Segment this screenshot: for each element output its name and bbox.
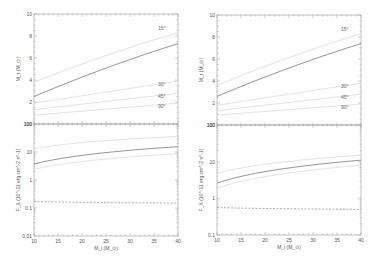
curve-main	[34, 44, 178, 97]
curve-threshold	[34, 202, 178, 204]
curve-15deg	[217, 34, 361, 86]
panel-bottom-left: 10152025303540M_i (M_⊙)0.010.1110100F_X …	[15, 121, 181, 251]
curve-15deg	[34, 33, 178, 82]
x-tick-label: 30	[127, 238, 133, 244]
y-tick-label: 0.1	[208, 232, 215, 238]
curve-label: 90°	[341, 104, 349, 110]
x-tick-label: 35	[334, 237, 340, 243]
y-tick-label: 0.1	[25, 205, 32, 211]
y-tick-label: 10	[26, 149, 32, 155]
y-tick-label: 0.01	[22, 233, 32, 239]
figure: 246810100M_r (M_⊙)15°30°45°90°1015202530…	[0, 0, 377, 260]
curve-30deg	[217, 83, 361, 105]
y-axis-title: F_X (10^-11 erg cm^-2 s^-1)	[15, 148, 21, 211]
y-tick-label: 4	[212, 78, 215, 84]
x-tick-label: 35	[151, 238, 157, 244]
y-tick-label: 10	[26, 11, 32, 17]
panel-bottom-right: 10152025303540M_i (M_⊙)0.1110100F_X (10^…	[198, 122, 364, 250]
curve-90deg	[34, 103, 178, 115]
curve-label: 30°	[341, 83, 349, 89]
curve-upper	[217, 155, 361, 173]
y-tick-label: 8	[212, 34, 215, 40]
y-axis-title: F_X (10^-11 erg cm^-2 s^-1)	[198, 148, 204, 211]
x-axis-title: M_i (M_⊙)	[94, 245, 118, 251]
panel-top-right: 246810100M_r (M_⊙)15°30°45°90°	[198, 12, 361, 128]
y-tick-label: 100	[207, 122, 216, 128]
curve-lower	[34, 154, 178, 170]
curve-label: 45°	[158, 93, 166, 99]
curve-main	[217, 44, 361, 97]
y-tick-label: 10	[209, 159, 215, 165]
y-axis-title: M_r (M_⊙)	[198, 58, 204, 83]
y-tick-label: 10	[209, 12, 215, 18]
x-tick-label: 10	[31, 238, 37, 244]
y-tick-label: 100	[24, 121, 33, 127]
curve-main	[217, 160, 361, 183]
curve-upper	[34, 136, 178, 148]
x-tick-label: 40	[358, 237, 364, 243]
curve-label: 15°	[158, 25, 166, 31]
x-axis-title: M_i (M_⊙)	[277, 244, 301, 250]
x-tick-label: 20	[79, 238, 85, 244]
x-tick-label: 30	[310, 237, 316, 243]
curve-label: 90°	[158, 103, 166, 109]
panel-top-left: 246810100M_r (M_⊙)15°30°45°90°	[15, 11, 178, 127]
curve-threshold	[217, 208, 361, 210]
plot-frame	[217, 125, 361, 235]
x-tick-label: 25	[286, 237, 292, 243]
curve-45deg	[217, 94, 361, 111]
y-tick-label: 6	[29, 55, 32, 61]
y-tick-label: 2	[29, 99, 32, 105]
curve-label: 45°	[341, 94, 349, 100]
x-tick-label: 15	[238, 237, 244, 243]
curve-45deg	[34, 93, 178, 110]
x-tick-label: 15	[55, 238, 61, 244]
curve-30deg	[34, 81, 178, 103]
x-tick-label: 40	[175, 238, 181, 244]
y-tick-label: 2	[212, 100, 215, 106]
x-tick-label: 25	[103, 238, 109, 244]
curve-90deg	[217, 104, 361, 115]
y-tick-label: 8	[29, 33, 32, 39]
curve-label: 30°	[158, 81, 166, 87]
y-tick-label: 4	[29, 77, 32, 83]
y-axis-title: M_r (M_⊙)	[15, 57, 21, 82]
y-tick-label: 1	[212, 195, 215, 201]
y-tick-label: 1	[29, 177, 32, 183]
x-tick-label: 10	[214, 237, 220, 243]
y-tick-label: 6	[212, 56, 215, 62]
x-tick-label: 20	[262, 237, 268, 243]
curve-label: 15°	[341, 26, 349, 32]
